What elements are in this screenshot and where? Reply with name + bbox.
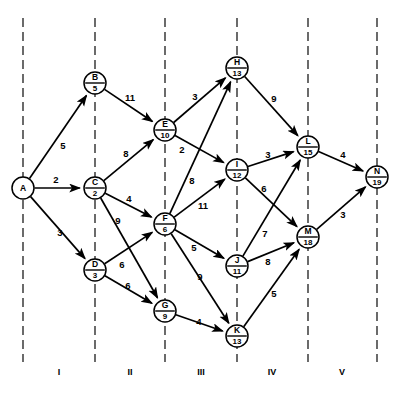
- edge-weight-e-h: 3: [192, 91, 197, 102]
- edge-weight-l-n: 4: [340, 149, 346, 160]
- node-label-c: C: [92, 177, 98, 187]
- node-label-e: E: [162, 119, 168, 129]
- edge-weight-f-j: 5: [191, 242, 197, 253]
- edge-weight-i-l: 3: [265, 149, 270, 160]
- phase-labels-group: IIIIIIIVV: [58, 367, 345, 377]
- phase-label-5: V: [339, 367, 345, 377]
- node-value-i: 12: [233, 171, 242, 180]
- edge-weight-f-i: 11: [198, 200, 209, 211]
- node-value-c: 2: [93, 189, 98, 198]
- node-g[interactable]: G9: [154, 300, 176, 322]
- node-label-n: N: [374, 166, 380, 176]
- edge-weight-e-i: 2: [179, 144, 184, 155]
- edge-weight-a-b: 5: [60, 140, 66, 151]
- node-value-m: 18: [304, 238, 313, 247]
- edge-weight-h-l: 9: [271, 93, 276, 104]
- edge-weight-c-f: 4: [126, 193, 132, 204]
- edge-weight-j-l: 7: [262, 228, 267, 239]
- node-value-n: 19: [373, 178, 382, 187]
- node-n[interactable]: N19: [366, 166, 388, 188]
- phase-label-1: I: [58, 367, 61, 377]
- node-label-i: I: [236, 159, 238, 169]
- node-label-k: K: [234, 325, 241, 335]
- edge-weight-j-m: 8: [265, 256, 270, 267]
- node-b[interactable]: B5: [84, 72, 106, 94]
- edge-weight-i-m: 6: [261, 183, 266, 194]
- node-l[interactable]: L15: [297, 136, 319, 158]
- network-diagram-svg: 52311849663281159493678543 AB5C2D3E10F6G…: [0, 0, 405, 397]
- node-h[interactable]: H13: [226, 57, 248, 79]
- node-m[interactable]: M18: [297, 226, 319, 248]
- edge-weight-d-g: 6: [125, 280, 130, 291]
- edge-e-to-h: [174, 78, 226, 123]
- edge-c-to-e: [104, 140, 153, 181]
- edge-weight-a-d: 3: [57, 227, 62, 238]
- node-label-l: L: [305, 136, 310, 146]
- edge-weight-c-g: 9: [115, 215, 120, 226]
- phase-label-2: II: [127, 367, 132, 377]
- edge-weight-m-n: 3: [340, 209, 345, 220]
- node-value-h: 13: [233, 69, 242, 78]
- node-value-l: 15: [304, 148, 313, 157]
- edge-f-to-j: [175, 230, 224, 259]
- edge-a-to-b: [30, 96, 87, 179]
- edge-i-to-l: [248, 152, 294, 167]
- node-label-j: J: [235, 255, 240, 265]
- node-label-a: A: [20, 183, 26, 193]
- node-i[interactable]: I12: [226, 159, 248, 181]
- edge-weight-f-h: 8: [189, 175, 194, 186]
- node-c[interactable]: C2: [84, 177, 106, 199]
- node-k[interactable]: K13: [226, 325, 248, 347]
- node-label-g: G: [162, 300, 169, 310]
- edge-weight-c-e: 8: [123, 148, 128, 159]
- node-value-d: 3: [93, 271, 98, 280]
- node-f[interactable]: F6: [154, 213, 176, 235]
- phase-label-4: IV: [268, 367, 277, 377]
- node-d[interactable]: D3: [84, 259, 106, 281]
- node-e[interactable]: E10: [154, 119, 176, 141]
- edge-weight-g-k: 4: [196, 316, 202, 327]
- node-a[interactable]: A: [12, 177, 34, 199]
- node-value-j: 11: [233, 267, 242, 276]
- edge-weight-d-f: 6: [119, 259, 124, 270]
- node-value-b: 5: [93, 84, 98, 93]
- edge-weight-a-c: 2: [53, 174, 58, 185]
- edge-h-to-l: [245, 77, 298, 136]
- edge-weight-f-k: 9: [197, 271, 202, 282]
- edge-j-to-l: [243, 160, 300, 256]
- node-value-g: 9: [163, 312, 168, 321]
- phase-label-3: III: [197, 367, 205, 377]
- edge-weight-k-m: 5: [271, 288, 277, 299]
- edge-d-to-f: [105, 232, 153, 263]
- node-value-e: 10: [161, 131, 170, 140]
- edge-i-to-m: [245, 178, 297, 227]
- edge-j-to-m: [248, 243, 294, 262]
- edge-f-to-i: [174, 179, 225, 217]
- node-value-f: 6: [163, 225, 168, 234]
- network-diagram-canvas: 52311849663281159493678543 AB5C2D3E10F6G…: [0, 0, 405, 397]
- node-label-b: B: [92, 72, 98, 82]
- node-label-f: F: [162, 213, 167, 223]
- node-label-h: H: [234, 57, 240, 67]
- node-label-d: D: [92, 259, 98, 269]
- edge-weight-b-e: 11: [125, 92, 136, 103]
- phase-divider-lines: [23, 18, 377, 362]
- node-label-m: M: [304, 226, 311, 236]
- node-j[interactable]: J11: [226, 255, 248, 277]
- node-value-k: 13: [233, 337, 242, 346]
- edge-weight-labels-group: 52311849663281159493678543: [53, 91, 346, 327]
